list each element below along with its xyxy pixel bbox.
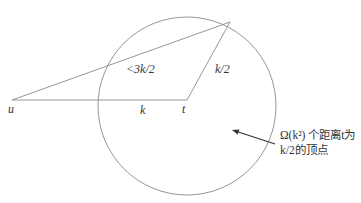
- vertex-label-u: u: [8, 103, 14, 115]
- edge-label-k-half: k/2: [215, 63, 230, 75]
- edge-u-p: [12, 22, 230, 100]
- diagram-canvas: [0, 0, 361, 203]
- annotation-text: Ω(k²) 个距离t为 k/2的顶点: [280, 128, 355, 158]
- edge-label-k: k: [140, 104, 145, 116]
- neighborhood-circle: [98, 17, 276, 195]
- annotation-line-2: k/2的顶点: [280, 143, 355, 158]
- arrow-icon: [232, 130, 275, 144]
- edge-t-p: [187, 22, 230, 100]
- edge-label-less-3k-half: <3k/2: [126, 63, 155, 75]
- annotation-line-1: Ω(k²) 个距离t为: [280, 128, 355, 143]
- vertex-label-t: t: [182, 103, 185, 115]
